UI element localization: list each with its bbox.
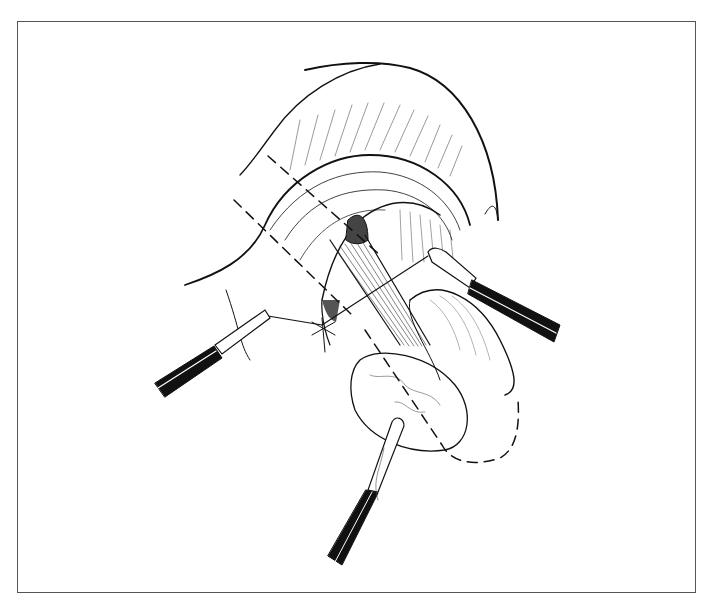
suture (268, 256, 428, 352)
exposed-structure (330, 235, 430, 346)
left-forceps (155, 310, 270, 397)
tissue-dome (240, 63, 498, 220)
dark-pocket (346, 215, 368, 244)
surgical-illustration (0, 0, 714, 611)
muscle-band (185, 155, 470, 360)
oval-sac (351, 353, 467, 451)
bottom-forceps (328, 418, 404, 565)
